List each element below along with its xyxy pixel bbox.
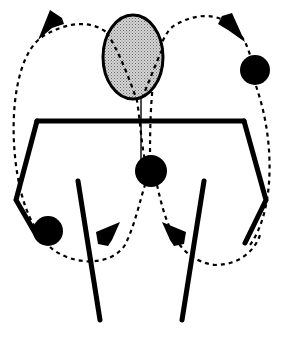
ball-left-bottom [33,216,63,246]
diagram-canvas [0,0,285,339]
left-arm [16,121,38,238]
right-bottom-loop-path [157,185,260,265]
right-arm [244,121,266,243]
juggling-diagram [0,0,285,339]
ball-center [135,155,167,187]
arrow-bottom-left-icon [96,222,120,246]
arrow-top-right-icon [218,13,245,42]
left-leg [78,181,100,320]
arrow-top-left-icon [38,10,64,40]
ball-right-top [240,55,270,85]
stick-figure [16,98,266,320]
left-bottom-loop-path [50,185,145,261]
right-outer-loop-path [150,16,270,245]
arrow-bottom-right-icon [162,222,186,246]
